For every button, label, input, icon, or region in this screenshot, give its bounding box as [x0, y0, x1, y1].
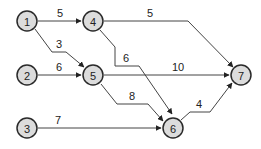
edge-weight-1-5: 3 — [56, 38, 62, 50]
edge-3-6: 7 — [38, 114, 161, 128]
node-label-5: 5 — [90, 70, 96, 82]
node-label-2: 2 — [24, 70, 30, 82]
edge-weight-3-6: 7 — [55, 114, 61, 126]
edge-2-5: 6 — [38, 61, 81, 75]
node-4: 4 — [83, 11, 103, 31]
edge-weight-1-4: 5 — [57, 7, 63, 19]
node-label-4: 4 — [90, 16, 96, 28]
edge-4-6: 6 — [100, 30, 172, 114]
node-7: 7 — [231, 65, 251, 85]
network-diagram: 5 3 5 6 6 10 8 7 4 1 2 3 — [0, 0, 261, 149]
node-6: 6 — [163, 118, 183, 138]
node-5: 5 — [83, 65, 103, 85]
edge-weight-4-6: 6 — [123, 52, 129, 64]
edge-1-4: 5 — [38, 7, 81, 21]
node-2: 2 — [17, 65, 37, 85]
node-1: 1 — [17, 11, 37, 31]
edge-weight-5-6: 8 — [129, 90, 135, 102]
edge-weight-6-7: 4 — [196, 98, 202, 110]
edge-weight-5-7: 10 — [172, 61, 184, 73]
node-label-7: 7 — [238, 70, 244, 82]
edge-weight-4-7: 5 — [147, 7, 153, 19]
node-3: 3 — [17, 118, 37, 138]
node-label-3: 3 — [24, 123, 30, 135]
node-label-6: 6 — [170, 123, 176, 135]
node-label-1: 1 — [24, 16, 30, 28]
edge-6-7: 4 — [181, 83, 232, 120]
edge-weight-2-5: 6 — [56, 61, 62, 73]
edge-5-6: 8 — [101, 84, 163, 121]
